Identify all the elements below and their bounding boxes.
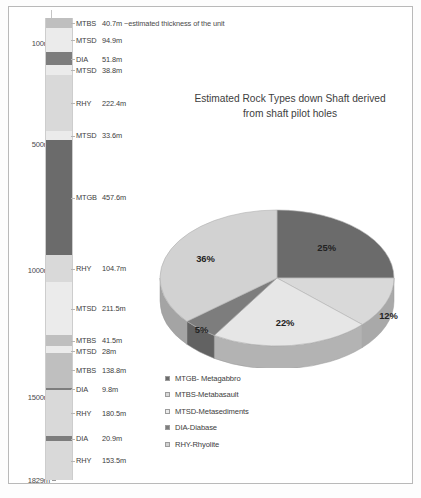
legend-swatch-icon [165,392,170,397]
legend-item[interactable]: RHY-Rhyolite [165,440,325,449]
thickness-note: ~estimated thickness of the unit [122,19,225,28]
label-leader [71,136,75,137]
unit-thickness: 180.5m [102,409,126,418]
unit-label: MTBS40.7m ~estimated thickness of the un… [76,19,225,28]
lithology-band [46,255,72,281]
page-root: 100m500m1000m1500m1829m MTBS40.7m ~estim… [0,0,421,498]
unit-code: MTSD [76,66,102,75]
stratigraphic-column-panel: 100m500m1000m1500m1829m MTBS40.7m ~estim… [14,10,164,480]
unit-thickness: 222.4m [102,99,126,108]
pie-chart-svg [148,200,406,368]
legend-item[interactable]: MTSD-Metasediments [165,407,325,416]
chart-title: Estimated Rock Types down Shaft derived … [172,92,408,122]
label-leader [71,413,75,414]
legend-label: DIA-Diabase [175,423,217,432]
unit-thickness: 94.9m [102,36,122,45]
unit-label: MTSD211.5m [76,304,126,313]
label-leader [71,40,75,41]
unit-label: MTSD28m [76,347,116,356]
unit-thickness: 20.9m [102,434,122,443]
unit-label: MTBS41.5m [76,336,122,345]
legend-item[interactable]: MTGB- Metagabbro [165,374,325,383]
lithology-band [46,282,72,335]
unit-code: MTSD [76,304,102,313]
lithology-band [46,52,72,65]
lithology-band [46,75,72,131]
legend-swatch-icon [165,442,170,447]
unit-code: MTSD [76,131,102,140]
unit-thickness: 40.7m [102,19,122,28]
pie-slice-percent: 36% [196,253,215,264]
unit-thickness: 457.6m [102,193,126,202]
unit-thickness: 138.8m [102,366,126,375]
lithology-band [46,353,72,388]
pie-slice-percent: 5% [195,324,209,335]
legend-swatch-icon [165,376,170,381]
label-leader [71,309,75,310]
pie-slice-percent: 25% [317,242,336,253]
legend-label: RHY-Rhyolite [175,440,219,449]
legend-item[interactable]: DIA-Diabase [165,423,325,432]
legend-label: MTSD-Metasediments [175,407,249,416]
unit-label: DIA20.9m [76,434,122,443]
unit-label: DIA51.8m [76,55,122,64]
legend-label: MTGB- Metagabbro [175,374,241,383]
unit-code: MTBS [76,336,102,345]
label-leader [71,198,75,199]
chart-title-line-1: Estimated Rock Types down Shaft derived [172,92,408,107]
lithology-band [46,346,72,353]
unit-thickness: 9.8m [102,385,118,394]
unit-code: DIA [76,434,102,443]
pie-slice-percent: 12% [379,310,398,321]
label-leader [71,23,75,24]
unit-label: DIA9.8m [76,385,118,394]
label-leader [71,70,75,71]
unit-code: MTBS [76,366,102,375]
unit-label: RHY180.5m [76,409,126,418]
legend-item[interactable]: MTBS-Metabasault [165,390,325,399]
legend-swatch-icon [165,425,170,430]
lithology-band [46,390,72,436]
label-leader [71,103,75,104]
label-leader [71,59,75,60]
unit-thickness: 51.8m [102,55,122,64]
unit-code: DIA [76,385,102,394]
label-leader [71,341,75,342]
unit-label: MTBS138.8m [76,366,126,375]
unit-thickness: 104.7m [102,264,126,273]
unit-label: RHY222.4m [76,99,126,108]
label-leader [71,269,75,270]
label-leader [71,351,75,352]
lithology-band [46,65,72,75]
unit-label: MTSD38.8m [76,66,122,75]
lithology-column [45,18,73,480]
lithology-band [46,28,72,52]
unit-code: MTGB [76,193,102,202]
unit-label: RHY104.7m [76,264,126,273]
lithology-band [46,140,72,256]
unit-label: RHY153.5m [76,456,126,465]
unit-code: DIA [76,55,102,64]
unit-code: RHY [76,99,102,108]
unit-code: MTSD [76,36,102,45]
unit-label: MTSD94.9m [76,36,122,45]
unit-code: RHY [76,456,102,465]
label-leader [71,370,75,371]
unit-thickness: 38.8m [102,66,122,75]
unit-thickness: 33.6m [102,131,122,140]
lithology-band [46,131,72,139]
unit-code: MTBS [76,19,102,28]
chart-title-line-2: from shaft pilot holes [172,107,408,122]
unit-code: MTSD [76,347,102,356]
lithology-band [46,335,72,345]
label-leader [71,389,75,390]
unit-code: RHY [76,409,102,418]
pie-chart: 25%12%22%5%36% [148,200,406,368]
depth-tick [52,480,56,481]
lithology-band [46,441,72,480]
legend-label: MTBS-Metabasault [175,390,238,399]
unit-thickness: 28m [102,347,116,356]
unit-thickness: 211.5m [102,304,126,313]
unit-label: MTGB457.6m [76,193,126,202]
label-leader [71,439,75,440]
